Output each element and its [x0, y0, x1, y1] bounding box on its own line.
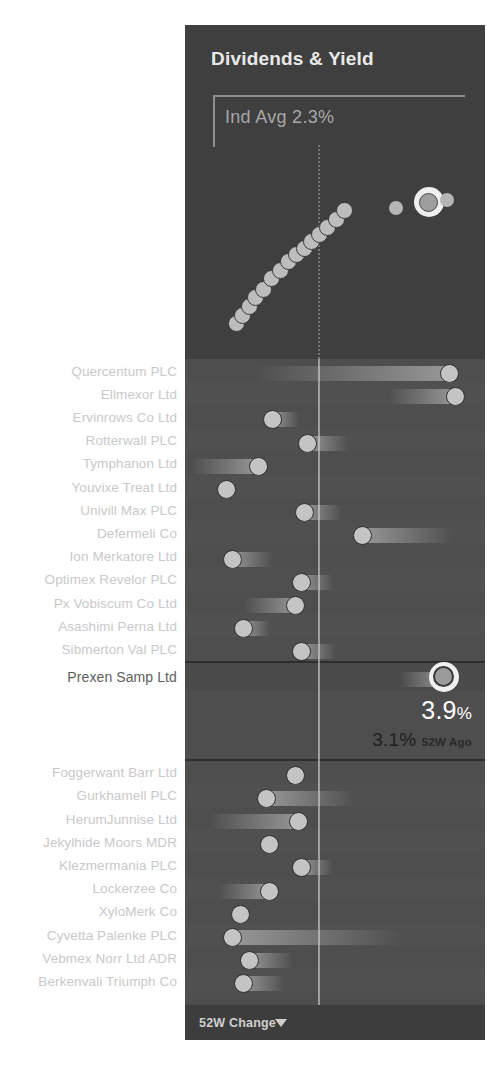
chart-dot[interactable]: [389, 201, 403, 215]
sort-control-bar[interactable]: 52W Change: [185, 1005, 485, 1040]
row-dot[interactable]: [286, 766, 305, 785]
company-label[interactable]: Ervinrows Co Ltd: [0, 411, 177, 425]
chart-reference-line: [318, 145, 320, 359]
change-bar: [363, 528, 453, 543]
change-bar: [255, 366, 449, 381]
company-label[interactable]: Klezmermania PLC: [0, 859, 177, 873]
table-row[interactable]: [185, 429, 485, 452]
company-label[interactable]: Berkenvali Triumph Co: [0, 975, 177, 989]
company-label[interactable]: Px Vobiscum Co Ltd: [0, 597, 177, 611]
table-row[interactable]: [185, 637, 485, 660]
row-dot[interactable]: [257, 789, 276, 808]
page-title: Dividends & Yield: [211, 48, 374, 70]
selected-previous-yield: 3.1% 52W Ago: [372, 729, 472, 751]
company-label-column: Quercentum PLCEllmexor LtdErvinrows Co L…: [0, 0, 185, 1074]
table-row[interactable]: [185, 923, 485, 946]
chart-dot-selected[interactable]: [419, 193, 438, 212]
table-row[interactable]: [185, 498, 485, 521]
company-list[interactable]: [185, 359, 485, 1005]
data-panel: Dividends & Yield Ind Avg 2.3% 3.9%3.1% …: [185, 25, 485, 1040]
company-label[interactable]: Optimex Revelor PLC: [0, 573, 177, 587]
table-row[interactable]: [185, 853, 485, 876]
dividends-yield-widget: Quercentum PLCEllmexor LtdErvinrows Co L…: [0, 0, 487, 1074]
table-row[interactable]: [185, 521, 485, 544]
company-label[interactable]: Gurkhamell PLC: [0, 789, 177, 803]
row-dot[interactable]: [260, 835, 279, 854]
table-row[interactable]: [185, 452, 485, 475]
table-row[interactable]: [185, 382, 485, 405]
company-label[interactable]: Lockerzee Co: [0, 882, 177, 896]
row-dot[interactable]: [292, 573, 311, 592]
table-row[interactable]: [185, 807, 485, 830]
row-dot[interactable]: [286, 596, 305, 615]
company-label[interactable]: Ellmexor Ltd: [0, 388, 177, 402]
table-row[interactable]: [185, 969, 485, 992]
change-bar: [209, 814, 299, 829]
table-row[interactable]: [185, 475, 485, 498]
company-label[interactable]: Vebmex Norr Ltd ADR: [0, 952, 177, 966]
list-reference-line: [318, 359, 320, 1005]
change-bar: [232, 930, 400, 945]
table-row[interactable]: [185, 405, 485, 428]
company-label[interactable]: Youvixe Treat Ltd: [0, 481, 177, 495]
company-label[interactable]: Cyvetta Palenke PLC: [0, 929, 177, 943]
company-label[interactable]: Jekylhide Moors MDR: [0, 836, 177, 850]
row-dot[interactable]: [260, 882, 279, 901]
table-row[interactable]: [185, 946, 485, 969]
table-row[interactable]: [185, 614, 485, 637]
company-label[interactable]: XyloMerk Co: [0, 905, 177, 919]
row-dot[interactable]: [298, 434, 317, 453]
company-label[interactable]: Foggerwant Barr Ltd: [0, 766, 177, 780]
row-dot[interactable]: [223, 550, 242, 569]
row-dot[interactable]: [217, 480, 236, 499]
company-label[interactable]: Defermeli Co: [0, 527, 177, 541]
chevron-down-icon[interactable]: [275, 1019, 287, 1027]
selected-current-yield: 3.9%: [421, 696, 472, 725]
row-dot[interactable]: [289, 812, 308, 831]
table-row[interactable]: [185, 830, 485, 853]
table-row[interactable]: [185, 545, 485, 568]
scatter-chart[interactable]: Dividends & Yield Ind Avg 2.3%: [185, 25, 485, 359]
table-row[interactable]: [185, 359, 485, 382]
table-row[interactable]: [185, 900, 485, 923]
company-label[interactable]: Rotterwall PLC: [0, 434, 177, 448]
chart-dot[interactable]: [440, 193, 454, 207]
company-label[interactable]: Sibmerton Val PLC: [0, 643, 177, 657]
row-dot[interactable]: [249, 457, 268, 476]
company-label[interactable]: HerumJunnise Ltd: [0, 813, 177, 827]
company-label[interactable]: Tymphanon Ltd: [0, 457, 177, 471]
selected-company-label[interactable]: Prexen Samp Ltd: [0, 671, 177, 685]
row-dot[interactable]: [231, 905, 250, 924]
row-dot[interactable]: [440, 364, 459, 383]
table-row[interactable]: [185, 784, 485, 807]
table-row[interactable]: [185, 663, 485, 691]
change-bar: [267, 791, 354, 806]
chart-dot[interactable]: [336, 202, 353, 219]
row-dot[interactable]: [240, 951, 259, 970]
industry-average-label: Ind Avg 2.3%: [225, 107, 334, 128]
table-row[interactable]: [185, 568, 485, 591]
sort-label: 52W Change: [199, 1016, 276, 1030]
row-dot[interactable]: [223, 928, 242, 947]
company-label[interactable]: Asashimi Perna Ltd: [0, 620, 177, 634]
row-dot[interactable]: [446, 387, 465, 406]
company-label[interactable]: Ion Merkatore Ltd: [0, 550, 177, 564]
company-label[interactable]: Univill Max PLC: [0, 504, 177, 518]
table-row[interactable]: [185, 591, 485, 614]
table-row[interactable]: [185, 877, 485, 900]
table-row[interactable]: [185, 761, 485, 784]
company-label[interactable]: Quercentum PLC: [0, 365, 177, 379]
